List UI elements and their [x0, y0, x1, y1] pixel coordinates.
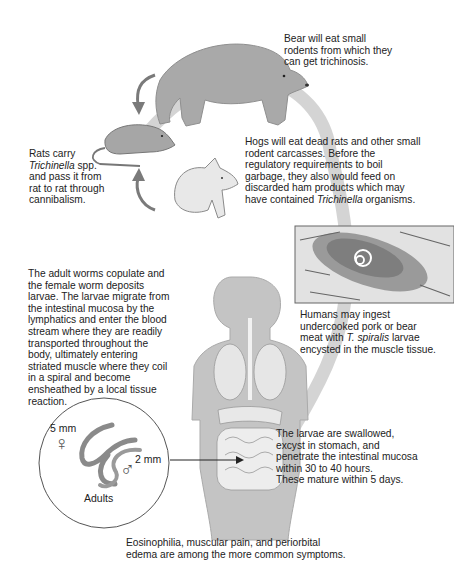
- female-symbol-icon: ♀: [54, 432, 69, 455]
- arrowhead-down-icon: [132, 102, 145, 115]
- human-body-illustration: [192, 277, 308, 540]
- arrow-bear-to-rat: [138, 75, 155, 105]
- male-symbol-icon: ♂: [120, 458, 135, 481]
- male-size-label: 2 mm: [135, 453, 161, 465]
- arrowhead-up-icon: [132, 168, 145, 181]
- rats-caption: Rats carry Trichinella spp. and pass it …: [29, 148, 104, 206]
- muscle-tissue-micrograph: [295, 221, 454, 304]
- larvae-swallowed-caption: The larvae are swallowed, excyst in stom…: [276, 428, 418, 486]
- symptoms-caption: Eosinophilia, muscular pain, and periorb…: [126, 537, 346, 560]
- hogs-caption: Hogs will eat dead rats and other small …: [245, 136, 421, 206]
- pig-illustration: [175, 158, 238, 218]
- adults-migrate-caption: The adult worms copulate and the female …: [28, 268, 169, 407]
- bear-caption: Bear will eat small rodents from which t…: [284, 33, 392, 68]
- humans-caption: Humans may ingest undercooked pork or be…: [300, 309, 436, 355]
- arrow-pig-to-rat: [137, 178, 155, 210]
- adults-label: Adults: [84, 492, 113, 504]
- rat-illustration: [93, 125, 175, 166]
